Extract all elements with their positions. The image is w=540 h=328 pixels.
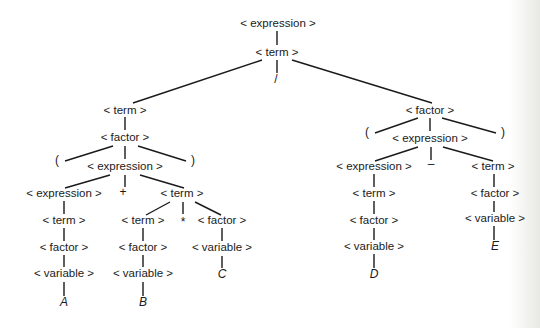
tree-edge <box>375 118 418 133</box>
tree-edge <box>292 60 432 103</box>
tree-node-nonterminal: < variable > <box>344 240 404 252</box>
tree-node-operator: ) <box>501 125 505 139</box>
tree-node-nonterminal: < term > <box>256 46 299 58</box>
tree-node-nonterminal: < term > <box>472 160 515 172</box>
tree-node-operator: * <box>181 215 186 229</box>
tree-node-operator: + <box>119 185 126 199</box>
tree-edge <box>133 60 262 103</box>
tree-node-nonterminal: < factor > <box>350 214 399 226</box>
tree-node-nonterminal: < variable > <box>465 212 525 224</box>
tree-edge <box>375 147 418 161</box>
tree-node-nonterminal: < term > <box>43 214 86 226</box>
tree-node-leaf: A <box>59 295 68 309</box>
tree-node-nonterminal: < expression > <box>240 17 316 29</box>
tree-node-nonterminal: < factor > <box>40 241 89 253</box>
parse-tree-diagram: < expression >< term >/< term >< factor … <box>0 0 540 328</box>
tree-node-nonterminal: < term > <box>353 187 396 199</box>
tree-node-leaf: D <box>370 267 379 281</box>
tree-node-operator: ) <box>191 153 195 167</box>
tree-node-leaf: E <box>491 239 500 253</box>
tree-node-nonterminal: < variable > <box>113 267 173 279</box>
tree-node-nonterminal: < factor > <box>471 187 520 199</box>
tree-node-operator: – <box>428 157 435 171</box>
tree-node-operator: ( <box>365 125 369 139</box>
tree-node-operator: / <box>274 72 278 86</box>
tree-node-leaf: C <box>218 267 227 281</box>
tree-node-nonterminal: < expression > <box>26 187 102 199</box>
tree-node-nonterminal: < variable > <box>192 241 252 253</box>
tree-node-nonterminal: < expression > <box>336 160 412 172</box>
tree-node-nonterminal: < factor > <box>198 214 247 226</box>
tree-edge <box>443 147 493 161</box>
tree-node-nonterminal: < term > <box>104 104 147 116</box>
tree-node-nonterminal: < term > <box>122 214 165 226</box>
tree-node-nonterminal: < expression > <box>392 132 468 144</box>
tree-edge <box>138 146 186 161</box>
tree-node-nonterminal: < factor > <box>101 131 150 143</box>
tree-node-leaf: B <box>139 295 147 309</box>
tree-node-nonterminal: < factor > <box>406 104 455 116</box>
tree-node-nonterminal: < term > <box>161 187 204 199</box>
tree-node-operator: ( <box>55 153 59 167</box>
tree-edge <box>65 146 113 161</box>
tree-nodes: < expression >< term >/< term >< factor … <box>26 17 525 309</box>
tree-node-nonterminal: < factor > <box>119 241 168 253</box>
tree-edge <box>442 118 496 133</box>
tree-node-nonterminal: < variable > <box>34 267 94 279</box>
tree-node-nonterminal: < expression > <box>87 160 163 172</box>
